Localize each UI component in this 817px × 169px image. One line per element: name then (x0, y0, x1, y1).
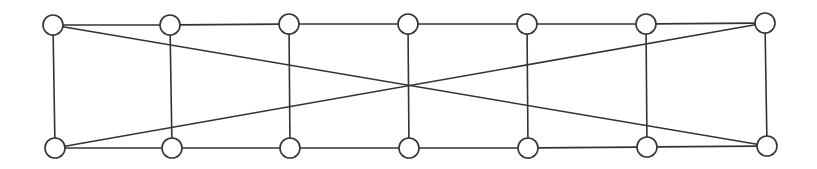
edge-t6-t7 (656, 23, 755, 24)
edge-b5-b6 (538, 147, 637, 148)
edge-t5-b5 (527, 34, 528, 138)
edge-t2-t3 (180, 24, 279, 25)
node-b1 (45, 138, 65, 158)
node-t1 (43, 15, 63, 35)
node-b3 (280, 138, 300, 158)
node-b5 (518, 138, 538, 158)
edge-t7-b7 (765, 33, 767, 136)
graph-diagram (0, 0, 817, 169)
node-t3 (279, 14, 299, 34)
node-t4 (398, 14, 418, 34)
node-t2 (160, 15, 180, 35)
edge-b6-b7 (657, 146, 757, 147)
node-t6 (636, 14, 656, 34)
edge-t6-b6 (646, 34, 647, 137)
edge-b1-t7 (65, 25, 755, 147)
edge-t2-b2 (170, 35, 172, 138)
node-b6 (637, 137, 657, 157)
edge-t1-b1 (53, 35, 55, 138)
node-b4 (399, 138, 419, 158)
edge-t3-b3 (289, 34, 290, 138)
node-t5 (517, 14, 537, 34)
node-t7 (755, 13, 775, 33)
node-b2 (162, 138, 182, 158)
node-b7 (757, 136, 777, 156)
edges (53, 23, 767, 148)
